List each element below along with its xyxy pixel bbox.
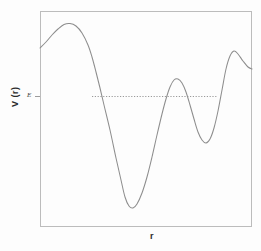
- x-axis-label: r: [140, 231, 164, 241]
- energy-level-label: E: [27, 91, 31, 99]
- plot-frame: [41, 12, 252, 227]
- y-axis-label-text: V (r): [10, 93, 20, 107]
- y-axis-label: V (r): [10, 93, 20, 107]
- potential-energy-chart: V (r) r E: [0, 0, 261, 251]
- chart-canvas: [0, 0, 261, 251]
- potential-curve: [40, 23, 252, 208]
